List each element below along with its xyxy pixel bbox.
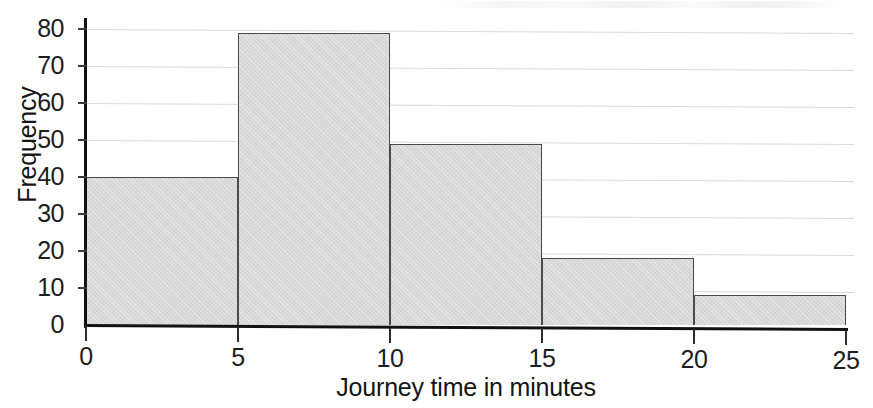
histogram-bar — [390, 144, 542, 325]
y-axis-tick-label: 80 — [18, 16, 64, 41]
scan-artifact — [430, 1, 850, 8]
x-axis-tick — [541, 328, 543, 343]
x-axis-tick — [389, 328, 391, 343]
gridline — [86, 66, 854, 71]
y-axis-tick-label: 0 — [18, 312, 64, 337]
y-axis-tick-label: 10 — [18, 275, 64, 300]
histogram-bar — [542, 258, 694, 325]
x-axis-tick — [237, 327, 239, 342]
y-axis-title: Frequency — [15, 45, 40, 245]
histogram-bar — [694, 295, 846, 325]
y-axis-tick — [78, 102, 87, 104]
y-axis-tick — [78, 287, 87, 289]
x-axis-line — [84, 324, 848, 331]
x-axis-tick-label: 0 — [56, 344, 116, 369]
x-axis-tick-label: 10 — [360, 346, 420, 371]
y-axis-tick — [78, 28, 87, 30]
x-axis-tick-label: 15 — [512, 346, 572, 371]
y-axis-tick — [78, 65, 87, 67]
histogram-bar — [86, 177, 238, 325]
x-axis-tick — [85, 326, 87, 341]
gridline — [86, 103, 854, 108]
y-axis-tick — [78, 250, 87, 252]
x-axis-tick-label: 20 — [664, 347, 724, 372]
histogram-bar — [238, 33, 390, 325]
gridline — [86, 29, 854, 34]
y-axis-tick — [78, 213, 87, 215]
y-axis-tick — [78, 176, 87, 178]
plot-area — [86, 29, 846, 325]
x-axis-title: Journey time in minutes — [86, 375, 846, 400]
y-axis-tick — [78, 139, 87, 141]
x-axis-tick — [693, 329, 695, 344]
x-axis-tick-label: 25 — [816, 348, 873, 373]
histogram-figure: 01020304050607080 0510152025 Frequency J… — [0, 0, 873, 408]
x-axis-tick-label: 5 — [208, 345, 268, 370]
x-axis-tick — [845, 330, 847, 345]
